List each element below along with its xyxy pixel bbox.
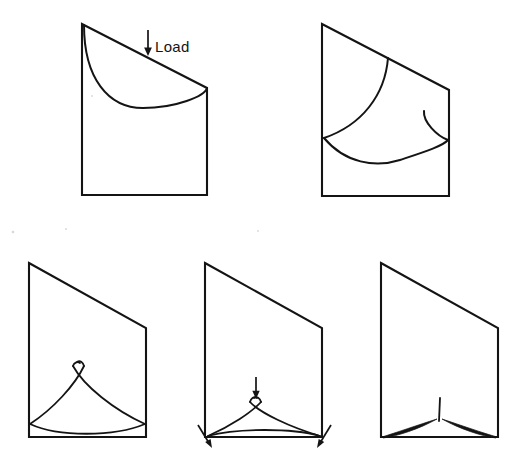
figure-3-left-wedge-arc xyxy=(30,366,84,424)
figure-2-slope-body-outline xyxy=(322,24,449,196)
figure-3-apex-crossing xyxy=(73,361,84,366)
figure-4-slope-body-outline xyxy=(205,263,322,437)
figure-2-slope-with-two-intersecting-arcs xyxy=(322,24,449,196)
figure-5-left-collapse-sliver xyxy=(382,419,437,438)
figure-4-apex-crossing xyxy=(250,397,261,402)
figure-1-load-label: Load xyxy=(155,38,190,55)
figure-4-vertical-load-arrow xyxy=(252,377,259,399)
slope-failure-diagram-canvas: Load xyxy=(0,0,528,472)
figure-1-slope-with-applied-load: Load xyxy=(82,24,207,195)
figure-4-slope-with-load-and-reaction-arrows xyxy=(198,263,331,448)
figure-2-upper-slip-arc xyxy=(324,58,388,138)
figure-2-secondary-slip-arc xyxy=(424,111,448,140)
figure-3-basal-arc xyxy=(30,424,145,434)
figure-5-collapsed-slope-state xyxy=(381,263,498,438)
figure-1-load-arrow xyxy=(144,30,152,56)
figure-3-right-wedge-arc xyxy=(73,366,145,424)
figure-2-basal-slip-arc xyxy=(324,138,448,164)
figure-5-right-collapse-sliver xyxy=(442,419,497,438)
figure-5-center-crack-tick xyxy=(439,398,440,421)
figure-3-slope-with-crossed-wedge-arcs xyxy=(29,263,146,437)
figure-sheet: Load xyxy=(0,0,528,472)
scan-speckle-group xyxy=(12,95,259,233)
